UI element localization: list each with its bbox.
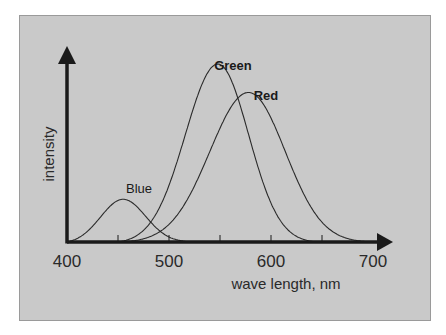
series-label-red: Red <box>254 88 279 103</box>
curve-green <box>118 64 317 242</box>
chart: 400500600700 wave length, nm intensity B… <box>0 0 446 335</box>
curves-layer <box>67 64 373 242</box>
x-tick-label: 600 <box>257 252 285 271</box>
curve-blue <box>67 199 195 242</box>
x-tick-label: 700 <box>359 252 387 271</box>
x-axis-label: wave length, nm <box>230 275 340 292</box>
y-axis-arrow-icon <box>58 46 76 64</box>
series-labels: BlueGreenRed <box>126 58 278 196</box>
series-label-green: Green <box>214 58 252 73</box>
curve-red <box>120 93 373 243</box>
x-tick-labels: 400500600700 <box>53 252 387 271</box>
series-label-blue: Blue <box>126 181 152 196</box>
y-axis-label: intensity <box>40 126 57 182</box>
x-axis-arrow-icon <box>377 233 393 251</box>
x-tick-label: 500 <box>155 252 183 271</box>
x-tick-label: 400 <box>53 252 81 271</box>
